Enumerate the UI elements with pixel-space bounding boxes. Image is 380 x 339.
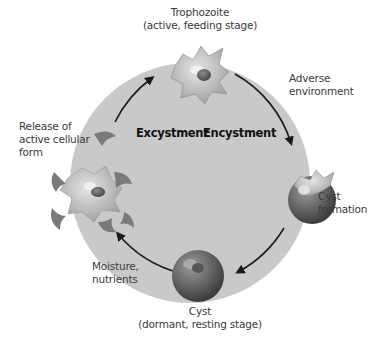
trophozoite-label: Trophozoite (active, feeding stage) xyxy=(135,6,265,32)
moisture-nutrients-label: Moisture, nutrients xyxy=(92,260,139,286)
adverse-label-line1: Adverse xyxy=(289,72,354,85)
release-label-line1: Release of xyxy=(19,120,90,133)
cyst-label: Cyst (dormant, resting stage) xyxy=(130,305,270,331)
release-label-line3: form xyxy=(19,146,90,159)
cyst-label-line1: Cyst xyxy=(130,305,270,318)
cyst-label-line2: (dormant, resting stage) xyxy=(130,318,270,331)
adverse-environment-label: Adverse environment xyxy=(289,72,354,98)
release-label: Release of active cellular form xyxy=(19,120,90,159)
life-cycle-diagram: Trophozoite (active, feeding stage) Adve… xyxy=(0,0,380,339)
moisture-label-line1: Moisture, xyxy=(92,260,139,273)
excystment-label: Excystment xyxy=(136,127,208,140)
dormant-cyst xyxy=(172,250,224,302)
cycle-graphic xyxy=(0,0,380,339)
trophozoite-label-line1: Trophozoite xyxy=(135,6,265,19)
moisture-label-line2: nutrients xyxy=(92,273,139,286)
release-label-line2: active cellular xyxy=(19,133,90,146)
cyst-formation-label-line2: formation xyxy=(318,203,367,216)
trophozoite-label-line2: (active, feeding stage) xyxy=(135,19,265,32)
encystment-label: Encystment xyxy=(203,127,276,140)
adverse-label-line2: environment xyxy=(289,85,354,98)
cyst-formation-label: Cyst formation xyxy=(318,190,367,216)
cyst-formation-label-line1: Cyst xyxy=(318,190,367,203)
